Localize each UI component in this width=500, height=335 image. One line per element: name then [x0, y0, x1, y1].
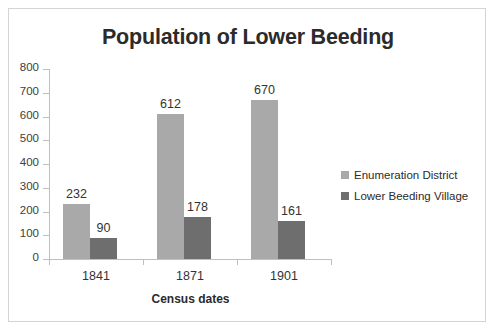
legend-swatch-icon: [341, 192, 349, 200]
x-axis-title: Census dates: [49, 292, 332, 306]
x-axis-tick: [49, 259, 50, 265]
x-axis-tick: [237, 259, 238, 265]
y-axis-tick-label: 100: [20, 227, 39, 239]
x-axis-category-label: 1871: [143, 269, 237, 283]
x-axis-tick: [143, 259, 144, 265]
y-axis-tick-label: 600: [20, 109, 39, 121]
y-axis-tick-label: 800: [20, 61, 39, 73]
bar-value-label: 90: [83, 221, 124, 235]
y-axis-tick-label: 500: [20, 132, 39, 144]
x-axis-category-label: 1841: [49, 269, 143, 283]
bar-value-label: 232: [56, 187, 97, 201]
x-axis-tick: [331, 259, 332, 265]
chart-legend: Enumeration DistrictLower Beeding Villag…: [341, 169, 483, 211]
y-axis-tick-label: 700: [20, 85, 39, 97]
bar: [157, 114, 184, 259]
bar-value-label: 161: [271, 204, 312, 218]
x-axis-line: [49, 259, 332, 260]
plot-area: 23290612178670161: [49, 69, 331, 259]
bar-value-label: 178: [177, 200, 218, 214]
legend-label: Lower Beeding Village: [354, 190, 468, 202]
bar: [90, 238, 117, 259]
bar: [278, 221, 305, 259]
bar-value-label: 612: [150, 97, 191, 111]
y-axis-tick-label: 0: [33, 251, 39, 263]
chart-figure: Population of Lower Beeding 800700600500…: [8, 8, 486, 322]
legend-label: Enumeration District: [354, 169, 458, 181]
x-axis-category-label: 1901: [237, 269, 331, 283]
y-axis-tick-label: 400: [20, 156, 39, 168]
legend-item: Lower Beeding Village: [341, 190, 483, 202]
bar-value-label: 670: [244, 83, 285, 97]
bar: [251, 100, 278, 259]
bar: [184, 217, 211, 259]
y-axis-tick-label: 200: [20, 204, 39, 216]
y-axis-tick-label: 300: [20, 180, 39, 192]
legend-swatch-icon: [341, 171, 349, 179]
chart-title: Population of Lower Beeding: [9, 25, 487, 50]
legend-item: Enumeration District: [341, 169, 483, 181]
